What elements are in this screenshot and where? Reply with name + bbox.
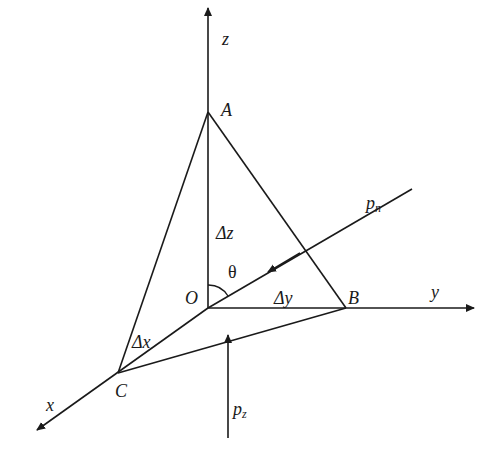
pn-arrow <box>268 253 300 272</box>
label-y-axis: y <box>431 283 439 301</box>
label-z-axis: z <box>222 30 229 48</box>
tetrahedron-diagram: z A Δz θ O Δy B y pn Δx C x pz <box>0 0 494 465</box>
theta-arc <box>208 285 228 296</box>
label-pn: pn <box>366 194 381 214</box>
label-pn-main: p <box>366 193 375 213</box>
label-x-axis: x <box>46 396 54 414</box>
label-pz: pz <box>233 400 247 420</box>
label-delta-z: Δz <box>216 224 234 242</box>
label-delta-y: Δy <box>274 289 293 307</box>
label-C: C <box>115 382 127 400</box>
label-delta-x: Δx <box>132 333 151 351</box>
label-B: B <box>348 289 359 307</box>
label-pz-main: p <box>233 399 242 419</box>
pn-force-line <box>208 189 412 308</box>
edge-CB <box>118 308 346 373</box>
label-O: O <box>185 289 198 307</box>
label-theta: θ <box>228 263 237 281</box>
label-pn-sub: n <box>375 201 381 215</box>
diagram-canvas <box>0 0 494 465</box>
label-A: A <box>221 101 232 119</box>
label-pz-sub: z <box>242 407 247 421</box>
x-axis <box>37 308 208 430</box>
